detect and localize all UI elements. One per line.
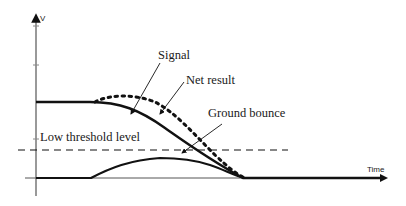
- ground-bounce-label: Ground bounce: [208, 106, 286, 120]
- signal-leader: [131, 63, 160, 114]
- net-result-leader: [160, 82, 184, 114]
- x-axis-label: Time: [367, 165, 385, 174]
- threshold-label: Low threshold level: [40, 130, 141, 144]
- net-result-label: Net result: [186, 73, 235, 87]
- signal-label: Signal: [158, 48, 190, 62]
- y-axis-label: V: [40, 14, 46, 23]
- ground-bounce-diagram: V Time Low threshold level Signal Net re…: [0, 0, 406, 206]
